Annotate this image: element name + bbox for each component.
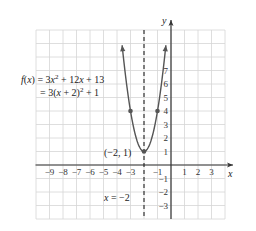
data-point: [155, 109, 160, 114]
y-tick-label: 7: [164, 66, 169, 76]
parabola-chart: −9−8−7−6−5−4−3−11237654321−1−2−3 (−2, 1)…: [0, 0, 256, 231]
x-tick-label: 2: [196, 167, 201, 177]
symmetry-label: x = −2: [103, 192, 130, 203]
y-tick-label: 2: [164, 133, 169, 143]
data-point: [142, 149, 147, 154]
y-axis-label: y: [161, 15, 167, 26]
fn-rest3: + 13: [84, 74, 105, 85]
data-point: [128, 109, 133, 114]
x-tick-label: 3: [209, 167, 214, 177]
y-tick-label: −2: [158, 187, 168, 197]
y-tick-label: 1: [164, 147, 169, 157]
function-label-line2: = 3(x + 2)2 + 1: [40, 86, 99, 99]
x-tick-label: −7: [72, 167, 82, 177]
fn2-a: = 3(: [40, 87, 57, 99]
x-axis-label: x: [227, 168, 233, 179]
x-tick-label: 1: [182, 167, 187, 177]
x-tick-label: −8: [58, 167, 68, 177]
grid: [36, 30, 225, 219]
x-tick-label: −6: [85, 167, 95, 177]
axes: [36, 20, 234, 219]
y-tick-label: 4: [164, 106, 169, 116]
symmetry-eq: = −2: [108, 192, 129, 203]
y-tick-label: −1: [158, 174, 168, 184]
x-tick-label: −9: [45, 167, 55, 177]
y-tick-label: 5: [164, 93, 169, 103]
x-tick-label: −5: [99, 167, 109, 177]
fn-rest2: + 12: [59, 74, 80, 85]
y-tick-label: −3: [158, 201, 168, 211]
vertex-label: (−2, 1): [104, 147, 131, 159]
y-tick-label: 6: [164, 79, 169, 89]
fn2-b: + 2): [61, 87, 80, 99]
y-tick-label: 3: [164, 120, 169, 130]
fn-eq1: ) = 3: [32, 74, 51, 86]
x-tick-label: −3: [126, 167, 136, 177]
fn2-c: + 1: [83, 87, 99, 98]
x-tick-label: −4: [112, 167, 122, 177]
function-label-line1: f(x) = 3x2 + 12x + 13: [21, 73, 104, 86]
